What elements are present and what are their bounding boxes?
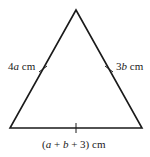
base-unit: cm bbox=[92, 138, 105, 150]
right-var: b bbox=[122, 60, 128, 72]
left-unit: cm bbox=[22, 60, 35, 72]
base-plus2: + 3) bbox=[68, 138, 89, 150]
base-plus1: + bbox=[51, 138, 63, 150]
right-unit: cm bbox=[130, 60, 143, 72]
left-side-label: 4a cm bbox=[8, 61, 35, 72]
base-label: (a + b + 3) cm bbox=[42, 139, 105, 150]
right-side-label: 3b cm bbox=[116, 61, 143, 72]
tick-right bbox=[105, 66, 113, 72]
tick-left bbox=[39, 66, 47, 72]
left-var: a bbox=[14, 60, 20, 72]
triangle-figure bbox=[0, 0, 150, 157]
